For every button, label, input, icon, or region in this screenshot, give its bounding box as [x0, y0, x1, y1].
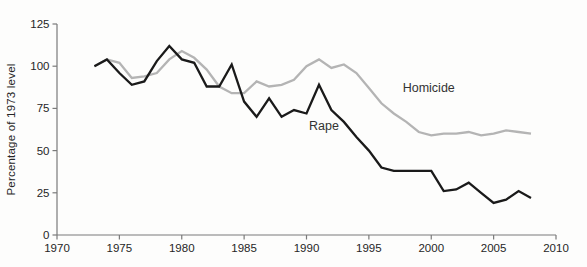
y-tick-label: 75: [37, 102, 50, 114]
y-tick-label: 0: [43, 229, 49, 241]
y-tick-label: 25: [37, 187, 50, 199]
chart-svg: 1970197519801985199019952000200520100255…: [0, 0, 587, 267]
x-tick-label: 1985: [231, 242, 257, 254]
x-tick-label: 2005: [481, 242, 507, 254]
homicide-label: Homicide: [403, 81, 455, 95]
y-tick-label: 50: [37, 145, 50, 157]
y-tick-label: 125: [30, 18, 49, 30]
x-tick-label: 1980: [169, 242, 195, 254]
x-tick-label: 1995: [356, 242, 382, 254]
crime-trends-figure: 1970197519801985199019952000200520100255…: [0, 0, 587, 267]
rape-label: Rape: [309, 119, 339, 133]
axes: 1970197519801985199019952000200520100255…: [30, 18, 568, 254]
x-tick-label: 2010: [543, 242, 569, 254]
x-tick-label: 1975: [107, 242, 133, 254]
x-tick-label: 1970: [44, 242, 70, 254]
x-tick-label: 2000: [418, 242, 444, 254]
y-axis-title: Percentage of 1973 level: [5, 63, 17, 195]
x-tick-label: 1990: [294, 242, 320, 254]
y-tick-label: 100: [30, 60, 49, 72]
